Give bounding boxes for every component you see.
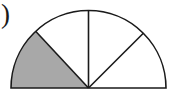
figure-container: ) <box>0 0 174 98</box>
semicircle-diagram-svg <box>0 0 174 98</box>
